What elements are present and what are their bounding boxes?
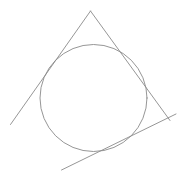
canvas-background <box>0 0 183 175</box>
geometry-drawing <box>0 0 183 175</box>
figure-canvas <box>0 0 183 175</box>
